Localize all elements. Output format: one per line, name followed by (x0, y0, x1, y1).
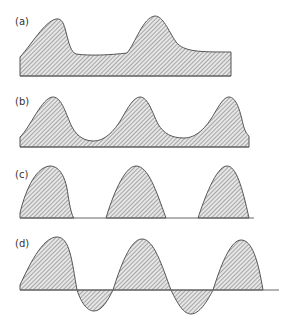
panel-d-waveform (20, 237, 263, 314)
panel-a: (a) (15, 16, 231, 76)
waveform-diagram: (a) (b) (c) (d) (0, 0, 289, 324)
panel-b-label: (b) (15, 96, 29, 107)
panel-c-label: (c) (15, 169, 28, 180)
panel-b-waveform (20, 97, 249, 147)
panel-c-pulse-3 (198, 166, 249, 218)
panel-b: (b) (15, 96, 249, 147)
panel-a-waveform (20, 16, 231, 76)
panel-d: (d) (15, 237, 279, 314)
panel-d-label: (d) (15, 238, 29, 249)
panel-a-label: (a) (15, 16, 29, 27)
panel-c-pulse-2 (106, 166, 166, 218)
panel-c: (c) (15, 166, 254, 218)
